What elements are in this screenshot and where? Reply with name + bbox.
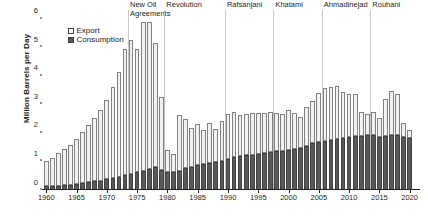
bar-segment-export[interactable]	[153, 43, 158, 168]
bar-group[interactable]	[256, 113, 261, 190]
bar-group[interactable]	[159, 97, 164, 190]
bar-group[interactable]	[183, 119, 188, 190]
bar-segment-export[interactable]	[213, 129, 218, 161]
bar-segment-export[interactable]	[141, 22, 146, 171]
bar-group[interactable]	[232, 112, 237, 190]
bar-segment-consumption[interactable]	[310, 143, 315, 190]
bar-segment-export[interactable]	[189, 128, 194, 167]
bar-segment-export[interactable]	[207, 123, 212, 163]
bar-segment-export[interactable]	[117, 72, 122, 177]
bar-segment-export[interactable]	[232, 112, 237, 158]
bar-group[interactable]	[407, 130, 412, 190]
bar-segment-export[interactable]	[80, 132, 85, 183]
bar-segment-export[interactable]	[111, 87, 116, 178]
bar-group[interactable]	[347, 94, 352, 190]
bar-segment-export[interactable]	[183, 119, 188, 168]
bar-group[interactable]	[207, 123, 212, 190]
bar-segment-consumption[interactable]	[147, 169, 152, 190]
bar-group[interactable]	[389, 91, 394, 190]
bar-segment-export[interactable]	[238, 115, 243, 156]
bar-group[interactable]	[371, 112, 376, 190]
bar-group[interactable]	[104, 100, 109, 190]
bar-segment-consumption[interactable]	[341, 138, 346, 190]
bar-segment-consumption[interactable]	[389, 135, 394, 190]
bar-group[interactable]	[129, 40, 134, 190]
bar-group[interactable]	[111, 87, 116, 190]
bar-group[interactable]	[280, 114, 285, 190]
bar-segment-consumption[interactable]	[359, 136, 364, 190]
bar-group[interactable]	[117, 72, 122, 190]
bar-group[interactable]	[286, 110, 291, 190]
bar-segment-export[interactable]	[74, 139, 79, 184]
bar-segment-consumption[interactable]	[274, 151, 279, 190]
bar-segment-consumption[interactable]	[371, 135, 376, 190]
bar-segment-export[interactable]	[347, 94, 352, 137]
bar-segment-export[interactable]	[329, 87, 334, 140]
bar-group[interactable]	[98, 110, 103, 190]
bar-segment-export[interactable]	[353, 94, 358, 137]
bar-segment-export[interactable]	[244, 114, 249, 155]
bar-segment-export[interactable]	[226, 114, 231, 159]
bar-segment-export[interactable]	[274, 113, 279, 151]
bar-group[interactable]	[123, 49, 128, 190]
bar-segment-consumption[interactable]	[268, 152, 273, 190]
bar-group[interactable]	[165, 150, 170, 190]
bar-segment-consumption[interactable]	[323, 141, 328, 190]
bar-segment-export[interactable]	[407, 130, 412, 137]
bar-segment-consumption[interactable]	[250, 155, 255, 190]
bar-group[interactable]	[365, 114, 370, 190]
bar-segment-consumption[interactable]	[292, 149, 297, 190]
bar-segment-consumption[interactable]	[353, 136, 358, 190]
bar-segment-consumption[interactable]	[280, 151, 285, 190]
bar-segment-export[interactable]	[286, 110, 291, 150]
bar-segment-export[interactable]	[159, 97, 164, 169]
bar-segment-export[interactable]	[371, 112, 376, 134]
bar-segment-export[interactable]	[56, 153, 61, 186]
bar-segment-export[interactable]	[280, 114, 285, 151]
bar-segment-consumption[interactable]	[159, 170, 164, 190]
bar-segment-export[interactable]	[92, 118, 97, 181]
bar-group[interactable]	[50, 158, 55, 190]
bar-group[interactable]	[383, 99, 388, 190]
bar-segment-export[interactable]	[323, 88, 328, 141]
bar-segment-export[interactable]	[389, 91, 394, 135]
bar-group[interactable]	[323, 88, 328, 190]
bar-group[interactable]	[304, 107, 309, 190]
bar-group[interactable]	[201, 130, 206, 190]
bar-segment-consumption[interactable]	[383, 136, 388, 190]
bar-segment-export[interactable]	[310, 101, 315, 143]
bar-segment-consumption[interactable]	[129, 174, 134, 190]
bar-segment-export[interactable]	[316, 93, 321, 142]
bar-segment-consumption[interactable]	[201, 164, 206, 190]
bar-group[interactable]	[244, 114, 249, 190]
bar-segment-consumption[interactable]	[226, 159, 231, 190]
bar-segment-consumption[interactable]	[262, 153, 267, 190]
bar-segment-consumption[interactable]	[123, 175, 128, 190]
bar-segment-export[interactable]	[304, 107, 309, 146]
bar-group[interactable]	[213, 129, 218, 190]
bar-segment-consumption[interactable]	[135, 172, 140, 190]
bar-segment-consumption[interactable]	[244, 155, 249, 190]
bar-segment-export[interactable]	[68, 145, 73, 185]
bar-segment-consumption[interactable]	[298, 148, 303, 190]
bar-segment-export[interactable]	[50, 158, 55, 186]
bar-segment-consumption[interactable]	[171, 172, 176, 190]
bar-segment-consumption[interactable]	[347, 137, 352, 190]
bar-group[interactable]	[62, 149, 67, 190]
bar-group[interactable]	[335, 86, 340, 190]
bar-group[interactable]	[274, 113, 279, 190]
bar-segment-export[interactable]	[220, 121, 225, 160]
bar-segment-consumption[interactable]	[335, 139, 340, 190]
bar-segment-consumption[interactable]	[177, 171, 182, 190]
bar-segment-consumption[interactable]	[329, 140, 334, 190]
bar-segment-consumption[interactable]	[256, 154, 261, 190]
bar-group[interactable]	[220, 121, 225, 190]
bar-segment-consumption[interactable]	[304, 146, 309, 190]
bar-segment-export[interactable]	[147, 22, 152, 169]
bar-group[interactable]	[292, 113, 297, 190]
bar-segment-consumption[interactable]	[238, 156, 243, 190]
bar-segment-consumption[interactable]	[377, 137, 382, 190]
bar-group[interactable]	[135, 49, 140, 190]
bar-segment-consumption[interactable]	[316, 142, 321, 190]
bar-segment-consumption[interactable]	[153, 167, 158, 190]
